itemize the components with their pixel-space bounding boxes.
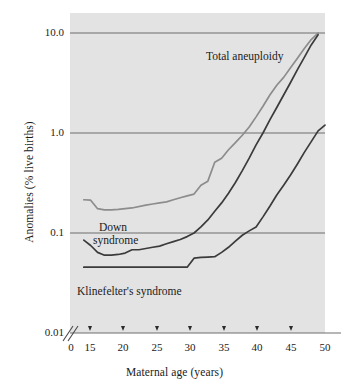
x-axis-title: Maternal age (years) — [0, 366, 349, 378]
x-tick-label-50: 50 — [317, 341, 333, 353]
x-tick-label-35: 35 — [216, 341, 232, 353]
series-label-klinefelter: Klinefelter's syndrome — [77, 285, 182, 298]
chart-figure: 10.0 1.0 0.1 0.01 0 15 20 25 30 35 40 45… — [0, 0, 349, 387]
y-axis-title: Anomalies (% live births) — [23, 107, 35, 257]
x-tick-label-15: 15 — [82, 341, 98, 353]
x-tick-label-0: 0 — [63, 341, 79, 353]
x-tick-label-20: 20 — [115, 341, 131, 353]
x-tick-label-40: 40 — [249, 341, 265, 353]
series-label-total-aneuploidy: Total aneuploidy — [206, 50, 283, 63]
series-label-down-syndrome-line2: syndrome — [93, 234, 138, 247]
y-tick-label-0-01: 0.01 — [14, 326, 64, 338]
x-tick-label-30: 30 — [182, 341, 198, 353]
x-tick-label-45: 45 — [283, 341, 299, 353]
series-label-down-syndrome-line1: Down — [99, 221, 127, 234]
y-tick-label-10: 10.0 — [22, 26, 64, 38]
x-tick-label-25: 25 — [149, 341, 165, 353]
